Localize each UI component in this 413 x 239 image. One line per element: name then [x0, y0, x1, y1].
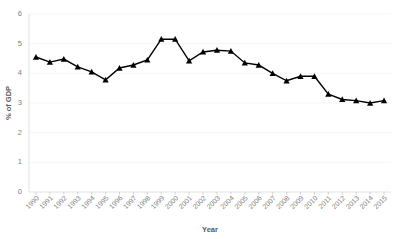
chart-canvas: 0123456 19901991199219931994199519961997…	[0, 0, 413, 239]
y-axis-tick-label: 0	[18, 187, 22, 196]
y-axis-tick-label: 4	[18, 68, 22, 77]
y-axis-title: % of GDP	[4, 86, 13, 120]
y-axis-tick-label: 2	[18, 128, 22, 137]
y-axis-tick-label: 5	[18, 39, 22, 48]
y-axis-tick-label: 6	[18, 9, 22, 18]
line-chart: 0123456 19901991199219931994199519961997…	[0, 0, 413, 239]
x-axis-title: Year	[202, 225, 218, 234]
y-axis-tick-label: 3	[18, 98, 22, 107]
y-axis-tick-label: 1	[18, 157, 22, 166]
